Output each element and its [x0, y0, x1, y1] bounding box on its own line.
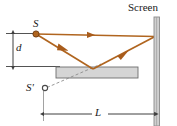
- figure-canvas: [0, 0, 177, 126]
- image-source-point: [42, 85, 47, 90]
- source-marker: [33, 31, 39, 37]
- light-rays: [36, 32, 155, 69]
- image-source-marker: [42, 85, 47, 90]
- lloyds-mirror-figure: Screen S d S' L: [0, 0, 177, 126]
- mirror: [56, 67, 138, 78]
- incident-ray: [36, 34, 93, 69]
- source-point: [33, 31, 39, 37]
- source-label: S: [33, 18, 39, 29]
- screen-label: Screen: [128, 2, 158, 13]
- image-source-label: S': [26, 82, 34, 93]
- screen: [154, 17, 160, 126]
- distance-L-label: L: [95, 107, 101, 118]
- direct-ray: [36, 34, 155, 37]
- distance-d-label: d: [16, 42, 22, 53]
- direct-ray-arrowhead: [87, 32, 95, 38]
- mirror-body: [56, 67, 138, 78]
- incident-ray-arrowhead: [57, 44, 69, 51]
